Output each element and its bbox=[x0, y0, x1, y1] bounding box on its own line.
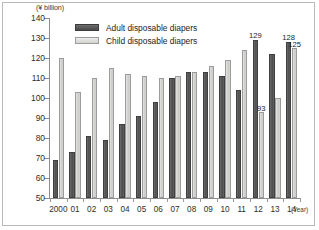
x-tick-13 bbox=[283, 198, 284, 202]
bar-adult-10 bbox=[219, 76, 224, 198]
data-label-child-12: 93 bbox=[252, 104, 270, 113]
bar-child-03 bbox=[109, 68, 114, 198]
x-tick-12 bbox=[267, 198, 268, 202]
bar-adult-08 bbox=[186, 72, 191, 198]
bar-adult-06 bbox=[153, 102, 158, 198]
bar-child-08 bbox=[192, 72, 197, 198]
bar-adult-07 bbox=[169, 78, 174, 198]
bar-child-06 bbox=[159, 78, 164, 198]
y-tick-label-90: 90 bbox=[14, 114, 45, 122]
bar-child-13 bbox=[275, 98, 280, 198]
x-tick-06 bbox=[167, 198, 168, 202]
x-tick-origin bbox=[50, 198, 51, 202]
y-tick-label-60: 60 bbox=[14, 174, 45, 182]
y-tick-label-80: 80 bbox=[14, 134, 45, 142]
x-tick-07 bbox=[183, 198, 184, 202]
bar-adult-03 bbox=[103, 140, 108, 198]
x-axis-line bbox=[49, 198, 301, 199]
legend-swatch-child-icon bbox=[75, 37, 99, 44]
bar-adult-2000 bbox=[53, 160, 58, 198]
y-tick-label-100: 100 bbox=[14, 94, 45, 102]
x-tick-14 bbox=[300, 198, 301, 202]
legend-item-child: Child disposable diapers bbox=[75, 35, 235, 46]
y-tick-label-50: 50 bbox=[14, 194, 45, 202]
x-tick-03 bbox=[117, 198, 118, 202]
legend-label-adult: Adult disposable diapers bbox=[106, 23, 197, 33]
bar-adult-14 bbox=[286, 42, 291, 198]
y-axis-unit-label: (¥ billion) bbox=[36, 3, 64, 12]
y-tick-label-140: 140 bbox=[14, 14, 45, 22]
bar-adult-12 bbox=[253, 40, 258, 198]
y-tick-label-130: 130 bbox=[14, 34, 45, 42]
bar-adult-04 bbox=[119, 124, 124, 198]
bar-child-12 bbox=[259, 112, 264, 198]
bar-adult-09 bbox=[203, 72, 208, 198]
x-tick-04 bbox=[133, 198, 134, 202]
bar-child-10 bbox=[225, 60, 230, 198]
x-tick-10 bbox=[233, 198, 234, 202]
bar-child-02 bbox=[92, 78, 97, 198]
bar-adult-05 bbox=[136, 116, 141, 198]
x-tick-02 bbox=[100, 198, 101, 202]
y-tick-label-70: 70 bbox=[14, 154, 45, 162]
y-tick-label-120: 120 bbox=[14, 54, 45, 62]
bar-adult-11 bbox=[236, 90, 241, 198]
chart-legend: Adult disposable diapers Child disposabl… bbox=[75, 22, 235, 48]
bar-child-05 bbox=[142, 76, 147, 198]
x-tick-09 bbox=[217, 198, 218, 202]
bar-child-04 bbox=[125, 74, 130, 198]
bar-child-09 bbox=[209, 66, 214, 198]
bar-child-07 bbox=[175, 76, 180, 198]
x-tick-05 bbox=[150, 198, 151, 202]
legend-swatch-adult-icon bbox=[75, 24, 99, 31]
x-axis-caption: (Year) bbox=[291, 206, 308, 213]
chart-figure: (¥ billion) 5060708090100110120130140 20… bbox=[0, 0, 319, 230]
bar-adult-13 bbox=[269, 54, 274, 198]
y-tick-label-110: 110 bbox=[14, 74, 45, 82]
bar-child-01 bbox=[75, 92, 80, 198]
x-tick-11 bbox=[250, 198, 251, 202]
x-tick-2000 bbox=[67, 198, 68, 202]
bar-adult-02 bbox=[86, 136, 91, 198]
bar-adult-01 bbox=[69, 152, 74, 198]
x-tick-01 bbox=[83, 198, 84, 202]
legend-label-child: Child disposable diapers bbox=[106, 36, 197, 46]
bar-child-11 bbox=[242, 50, 247, 198]
data-label-child-14: 125 bbox=[286, 40, 304, 49]
bar-child-14 bbox=[292, 48, 297, 198]
data-label-adult-12: 129 bbox=[246, 31, 264, 40]
legend-item-adult: Adult disposable diapers bbox=[75, 22, 235, 33]
x-tick-08 bbox=[200, 198, 201, 202]
bar-child-2000 bbox=[59, 58, 64, 198]
